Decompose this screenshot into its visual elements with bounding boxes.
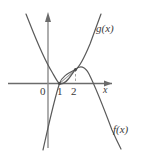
x-tick-label-2: 2 [71, 86, 77, 97]
graph-figure: 0 1 2 x g(x) f(x) [0, 0, 146, 156]
x-axis-label: x [103, 85, 107, 95]
y-axis-arrow-icon [45, 12, 51, 22]
curve-f [26, 14, 121, 149]
curve-label-g: g(x) [96, 23, 114, 34]
intersection-point-x2 [74, 68, 77, 71]
x-tick-label-1: 1 [57, 86, 63, 97]
x-tick-label-0: 0 [40, 86, 46, 97]
curve-label-f: f(x) [113, 124, 128, 135]
